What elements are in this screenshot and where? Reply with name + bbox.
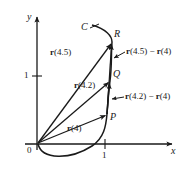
leader-diff45 (114, 52, 125, 58)
y-axis-label: y (27, 12, 31, 22)
vector-label-diff45-arg-1: (4.5) (130, 46, 147, 56)
point-label-q: Q (113, 69, 120, 79)
vector-label-r4: r(4) (67, 124, 82, 133)
x-tick-label: 1 (102, 151, 107, 160)
vector-label-diff42: r(4.2) − r(4) (125, 92, 170, 101)
vector-label-diff42-arg-2: (4) (160, 91, 171, 101)
vector-label-diff45: r(4.5) − r(4) (126, 47, 171, 56)
vector-label-r42: r(4.2) (74, 81, 95, 90)
curve-label-c: C (81, 22, 88, 32)
vector-label-diff45-arg-2: (4) (161, 46, 172, 56)
vector-label-diff42-arg-1: (4.2) (129, 91, 146, 101)
y-axis (32, 17, 42, 150)
vector-function-figure: y x 0 1 1 C R Q P r(4.5) r(4.2) r(4) r(4… (0, 0, 191, 170)
vector-label-r45-arg: (4.5) (54, 47, 71, 57)
point-label-p: P (110, 112, 116, 122)
leader-diff42 (112, 97, 124, 99)
vector-r42 (38, 83, 109, 144)
vector-label-r4-arg: (4) (71, 123, 82, 133)
vector-label-diff42-minus: − (146, 91, 156, 101)
point-label-r: R (114, 29, 120, 39)
y-tick-label: 1 (24, 71, 29, 80)
curve-c (38, 25, 112, 156)
x-axis-label: x (171, 146, 175, 156)
vector-label-r45: r(4.5) (50, 48, 71, 57)
vector-label-diff45-minus: − (147, 46, 157, 56)
origin-label: 0 (27, 146, 32, 155)
vector-label-r42-arg: (4.2) (78, 80, 95, 90)
